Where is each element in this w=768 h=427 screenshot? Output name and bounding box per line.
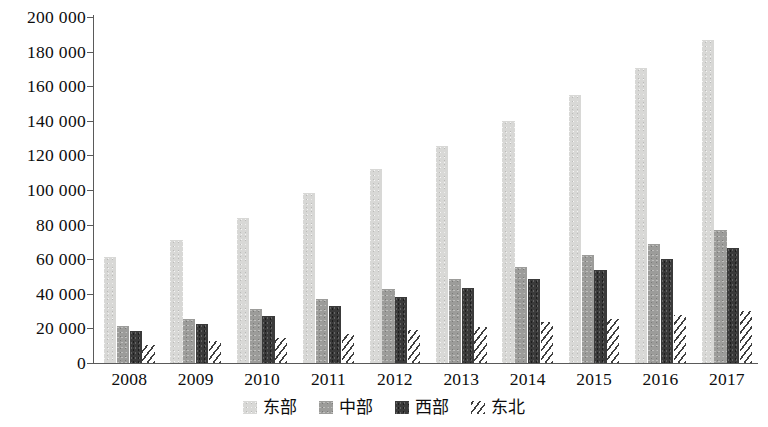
bar-chart: 020 00040 00060 00080 000100 000120 0001… — [0, 0, 768, 427]
x-axis-tick-label: 2009 — [158, 369, 233, 390]
legend-label: 东北 — [491, 399, 525, 416]
bar-group — [370, 17, 421, 363]
bar-west — [329, 306, 341, 363]
bar-northeast — [607, 319, 619, 363]
y-axis-tick — [87, 121, 94, 122]
bar-east — [237, 218, 249, 363]
x-axis-tick-label: 2015 — [557, 369, 632, 390]
bar-northeast — [740, 311, 752, 363]
legend-item-4: 东北 — [471, 399, 525, 416]
bar-central — [316, 299, 328, 363]
bar-west — [594, 270, 606, 363]
bar-group — [436, 17, 487, 363]
bar-northeast — [408, 330, 420, 363]
y-axis-tick-label: 120 000 — [27, 145, 86, 166]
y-axis-tick-label: 200 000 — [27, 7, 86, 28]
bar-west — [395, 297, 407, 363]
bar-east — [370, 169, 382, 363]
legend-item-2: 中部 — [319, 399, 373, 416]
y-axis-tick — [87, 225, 94, 226]
bar-central — [183, 319, 195, 363]
legend-label: 西部 — [415, 399, 449, 416]
y-axis-tick-label: 100 000 — [27, 180, 86, 201]
bar-group — [569, 17, 620, 363]
y-axis-tick — [87, 52, 94, 53]
bar-central — [250, 309, 262, 363]
bar-east — [502, 121, 514, 363]
bar-group — [170, 17, 221, 363]
bar-west — [262, 316, 274, 363]
bar-east — [436, 146, 448, 363]
y-axis-tick — [87, 363, 94, 364]
bar-group — [237, 17, 288, 363]
y-axis-tick — [87, 294, 94, 295]
legend-label: 中部 — [339, 399, 373, 416]
bar-east — [569, 95, 581, 363]
bar-west — [661, 259, 673, 363]
bar-northeast — [474, 327, 486, 363]
bar-central — [648, 244, 660, 363]
y-axis-tick-label: 20 000 — [36, 318, 86, 339]
bar-group — [635, 17, 686, 363]
bar-west — [528, 279, 540, 363]
x-axis-tick-label: 2011 — [291, 369, 366, 390]
bar-group — [502, 17, 553, 363]
legend-swatch-icon — [243, 401, 257, 414]
bar-central — [515, 267, 527, 363]
y-axis-tick — [87, 259, 94, 260]
x-axis-tick-label: 2010 — [225, 369, 300, 390]
bar-west — [462, 288, 474, 363]
legend-label: 东部 — [263, 399, 297, 416]
bar-group — [303, 17, 354, 363]
bar-west — [196, 324, 208, 363]
bar-east — [635, 68, 647, 363]
legend-swatch-icon — [471, 401, 485, 414]
bar-group — [104, 17, 155, 363]
bar-central — [449, 279, 461, 363]
bar-east — [170, 240, 182, 363]
bar-central — [714, 230, 726, 363]
bar-northeast — [275, 338, 287, 363]
plot-area — [94, 17, 758, 363]
legend-item-1: 东部 — [243, 399, 297, 416]
legend: 东部中部西部东北 — [0, 399, 768, 416]
y-axis-tick — [87, 155, 94, 156]
bar-east — [702, 40, 714, 364]
bar-northeast — [342, 334, 354, 363]
bar-west — [130, 331, 142, 363]
bar-central — [582, 255, 594, 363]
y-axis-tick-label: 180 000 — [27, 41, 86, 62]
x-axis-tick-label: 2008 — [92, 369, 167, 390]
bar-northeast — [541, 322, 553, 363]
bar-central — [382, 289, 394, 363]
x-axis-tick-label: 2017 — [690, 369, 765, 390]
legend-item-3: 西部 — [395, 399, 449, 416]
bar-northeast — [674, 315, 686, 363]
bar-east — [104, 257, 116, 363]
bar-west — [727, 248, 739, 363]
y-axis-tick-label: 0 — [77, 353, 86, 374]
y-axis-tick-label: 40 000 — [36, 283, 86, 304]
y-axis-tick — [87, 86, 94, 87]
x-axis-tick-label: 2016 — [623, 369, 698, 390]
y-axis-tick-label: 80 000 — [36, 214, 86, 235]
y-axis-tick-label: 60 000 — [36, 249, 86, 270]
x-axis-tick-label: 2014 — [490, 369, 565, 390]
x-axis-tick-label: 2013 — [424, 369, 499, 390]
y-axis-tick — [87, 190, 94, 191]
bar-east — [303, 193, 315, 363]
y-axis-tick-label: 140 000 — [27, 110, 86, 131]
x-axis-tick-label: 2012 — [358, 369, 433, 390]
x-axis-line — [93, 363, 758, 364]
bar-central — [117, 326, 129, 363]
bar-group — [702, 17, 753, 363]
legend-swatch-icon — [395, 401, 409, 414]
bar-northeast — [142, 345, 154, 363]
legend-swatch-icon — [319, 401, 333, 414]
y-axis-tick — [87, 17, 94, 18]
y-axis-tick — [87, 328, 94, 329]
bar-northeast — [209, 341, 221, 363]
y-axis-tick-label: 160 000 — [27, 76, 86, 97]
